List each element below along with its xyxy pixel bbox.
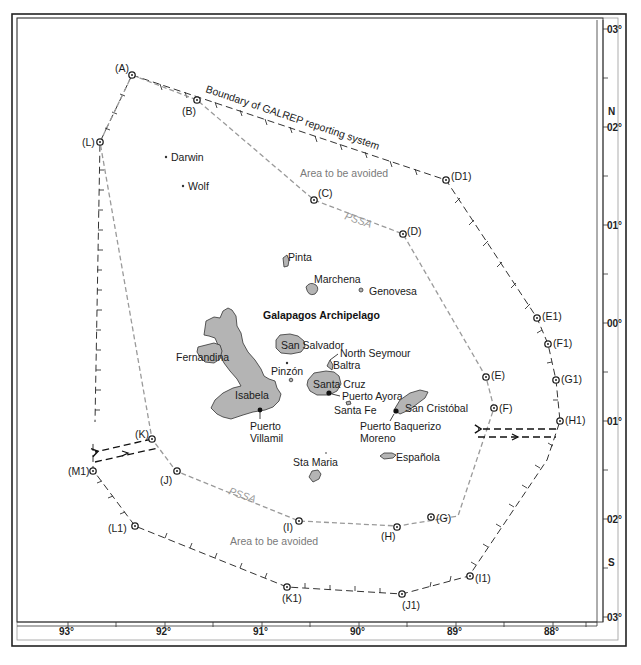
- waypoint-b: (B): [182, 105, 196, 117]
- area-avoided-label-north: Area to be avoided: [300, 167, 388, 179]
- waypoint-j: (J): [160, 474, 172, 486]
- island-sta-maria: Sta Maria: [293, 456, 338, 468]
- island-pinzon: Pinzón: [271, 365, 303, 377]
- lon-tick-93: 93°: [59, 626, 74, 637]
- island-santa-fe: Santa Fe: [334, 404, 377, 416]
- lat-tick-02s: 02°: [607, 514, 622, 525]
- lon-tick-92: 92°: [156, 626, 171, 637]
- pssa-label-south: PSSA: [227, 485, 257, 505]
- island-san-cristobal: San Cristóbal: [405, 402, 468, 414]
- waypoint-h1: (H1): [565, 414, 585, 426]
- island-genovesa: Genovesa: [369, 285, 417, 297]
- lon-tick-90: 90°: [350, 626, 365, 637]
- latitude-scale: 03° N 02° 01° 00° 01° 02° S 03°: [603, 24, 622, 623]
- port-puerto-baquerizo-line1: Puerto Baquerizo: [360, 420, 441, 432]
- island-fernandina: Fernandina: [176, 351, 229, 363]
- pssa-label-north: PSSA: [343, 210, 373, 230]
- waypoint-l1: (L1): [108, 522, 127, 534]
- north-label: N: [608, 106, 615, 117]
- waypoint-k1: (K1): [282, 592, 302, 604]
- galrep-boundary: Boundary of GALREP reporting system: [93, 75, 560, 594]
- island-espanola: Española: [396, 451, 440, 463]
- port-puerto-villamil-line2: Villamil: [250, 432, 283, 444]
- lat-tick-01s: 01°: [607, 416, 622, 427]
- island-isabela: Isabela: [235, 389, 269, 401]
- south-label: S: [608, 557, 615, 568]
- waypoint-i: (I): [283, 521, 293, 533]
- waypoint-m1: (M1): [68, 465, 90, 477]
- lon-tick-89: 89°: [447, 626, 462, 637]
- lat-tick-00: 00°: [607, 318, 622, 329]
- waypoint-i1: (I1): [475, 572, 491, 584]
- lat-tick-03n: 03°: [607, 24, 622, 35]
- map-frame: [12, 14, 626, 646]
- waypoint-e1: (E1): [542, 310, 562, 322]
- island-darwin: Darwin: [171, 151, 204, 163]
- port-puerto-villamil-line1: Puerto: [250, 420, 281, 432]
- island-santa-cruz: Santa Cruz: [313, 378, 366, 390]
- waypoint-h: (H): [381, 530, 396, 542]
- island-pinta: Pinta: [288, 251, 312, 263]
- archipelago-title: Galapagos Archipelago: [263, 309, 380, 321]
- pssa-waypoints: (A) (B) (C) (D) (E) (F) (G) (H) (I) (J) …: [82, 62, 512, 542]
- port-puerto-ayora: Puerto Ayora: [342, 390, 403, 402]
- waypoint-a: (A): [115, 62, 129, 74]
- galrep-boundary-label: Boundary of GALREP reporting system: [204, 83, 381, 152]
- waypoint-e: (E): [491, 369, 505, 381]
- island-baltra: Baltra: [333, 359, 361, 371]
- waypoint-j1: (J1): [402, 599, 420, 611]
- lat-tick-02n: 02°: [607, 122, 622, 133]
- waypoint-d1: (D1): [451, 170, 471, 182]
- lat-tick-01n: 01°: [607, 220, 622, 231]
- area-avoided-label-south: Area to be avoided: [230, 535, 318, 547]
- waypoint-l: (L): [82, 136, 95, 148]
- lon-tick-91: 91°: [253, 626, 268, 637]
- longitude-scale: 93° 92° 91° 90° 89° 88°: [17, 622, 597, 637]
- waypoint-c: (C): [318, 187, 333, 199]
- waypoint-f1: (F1): [553, 337, 572, 349]
- lat-tick-03s: 03°: [607, 612, 622, 623]
- galapagos-pssa-map: 93° 92° 91° 90° 89° 88° 03° N 02° 01° 00…: [0, 0, 641, 665]
- island-san-salvador: San Salvador: [281, 339, 345, 351]
- island-north-seymour: North Seymour: [340, 347, 411, 359]
- waypoint-g1: (G1): [561, 373, 582, 385]
- island-wolf: Wolf: [188, 180, 209, 192]
- waypoint-k: (K): [135, 428, 149, 440]
- waypoint-f: (F): [499, 402, 512, 414]
- lon-tick-88: 88°: [544, 626, 559, 637]
- port-puerto-baquerizo-line2: Moreno: [360, 432, 396, 444]
- waypoint-g: (G): [436, 512, 451, 524]
- waypoint-d: (D): [407, 225, 422, 237]
- island-marchena: Marchena: [314, 273, 361, 285]
